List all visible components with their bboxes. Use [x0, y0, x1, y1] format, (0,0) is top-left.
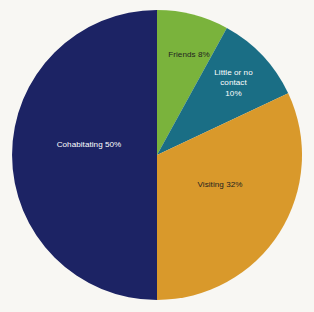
pie-slice-group: [12, 10, 302, 300]
pie-chart-canvas: [0, 0, 314, 312]
pie-slice-cohabitating: [12, 10, 157, 300]
pie-chart: Friends 8% Little or no contact 10% Visi…: [0, 0, 314, 312]
